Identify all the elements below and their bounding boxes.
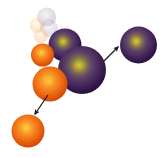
arrow-purple-right: [104, 47, 118, 61]
solid-atom-layer: [12, 27, 158, 148]
molecule-canvas: [0, 0, 168, 158]
molecule-figure: [0, 0, 168, 158]
atom-ghost-orange-lower: [34, 29, 48, 43]
atom-orange-large: [33, 67, 68, 102]
atom-purple-detached: [120, 27, 157, 64]
atom-orange-upper: [31, 44, 54, 67]
atom-orange-detached: [12, 115, 45, 148]
